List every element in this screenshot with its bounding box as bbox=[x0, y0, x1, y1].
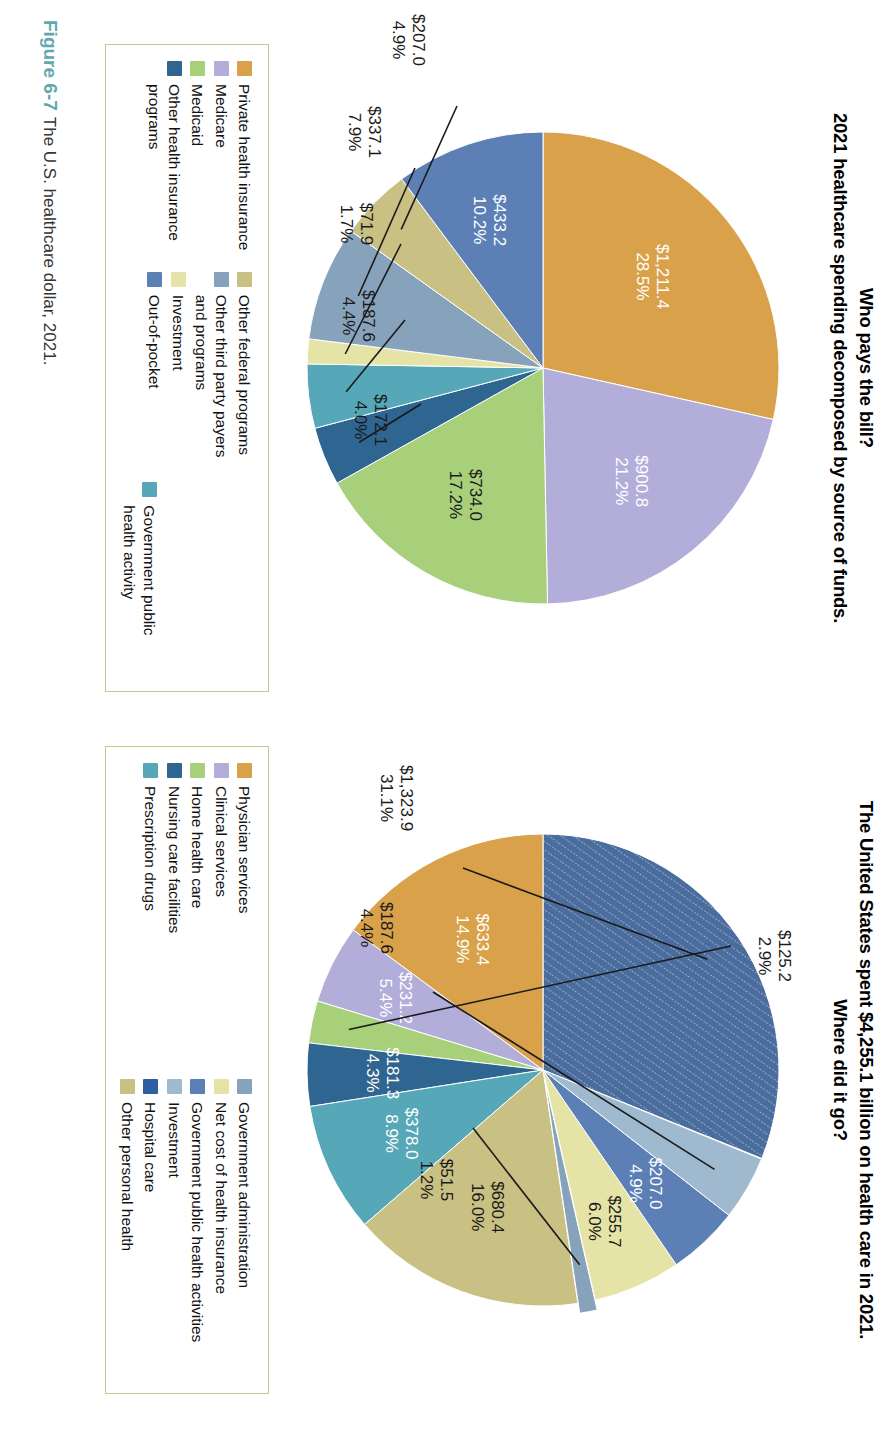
pie-slice-value: $680.4 bbox=[488, 1181, 507, 1233]
legend-swatch-icon bbox=[167, 61, 182, 76]
legend-item-label: Government public health activity bbox=[120, 505, 159, 675]
pie-slice-value: $734.0 bbox=[466, 469, 485, 521]
legend-item: Out-of-pocket bbox=[145, 272, 164, 465]
legend-item: Investment bbox=[165, 1079, 184, 1377]
legend-item-label: Home health care bbox=[188, 786, 207, 908]
legend-item: Other personal health bbox=[118, 1079, 137, 1377]
pie-callout-label: $51.51.2% bbox=[417, 1159, 456, 1202]
legend-swatch-icon bbox=[214, 272, 229, 287]
pie-slice-value: $1,211.4 bbox=[653, 244, 672, 309]
left-legend-column-3: Government public health activity bbox=[120, 482, 254, 675]
pie-slice-label: $900.821.2% bbox=[612, 455, 651, 507]
pie-slice-label: $633.414.9% bbox=[453, 913, 492, 965]
pie-slice-value: $181.3 bbox=[383, 1047, 402, 1099]
pie-callout-label: $172.14.0% bbox=[351, 394, 390, 446]
pie-slice-percent: 8.9% bbox=[382, 1114, 401, 1153]
legend-item-label: Other third party payers and programs bbox=[192, 295, 231, 458]
right-chart-title-line1: The United States spent $4,255.1 billion… bbox=[853, 720, 879, 1420]
legend-swatch-icon bbox=[148, 272, 163, 287]
pie-callout-percent: 31.1% bbox=[377, 774, 396, 822]
legend-swatch-icon bbox=[142, 482, 157, 497]
pie-slice-percent: 28.5% bbox=[633, 252, 652, 300]
pie-callout-percent: 2.9% bbox=[755, 937, 774, 976]
legend-item: Home health care bbox=[188, 763, 207, 1061]
legend-item: Other third party payers and programs bbox=[192, 272, 231, 465]
legend-item-label: Nursing care facilities bbox=[165, 786, 184, 933]
pie-slice-percent: 21.2% bbox=[612, 457, 631, 505]
legend-swatch-icon bbox=[190, 763, 205, 778]
pie-callout-percent: 1.2% bbox=[417, 1161, 436, 1200]
pie-callout-value: $187.6 bbox=[377, 902, 396, 954]
pie-callout-value: $1,323.9 bbox=[397, 765, 416, 831]
legend-item-label: Government administration bbox=[235, 1102, 254, 1288]
legend-item-label: Physician services bbox=[235, 786, 254, 914]
legend-item-label: Medicaid bbox=[188, 84, 207, 146]
legend-swatch-icon bbox=[144, 763, 159, 778]
left-chart-title: Who pays the bill? 2021 healthcare spend… bbox=[826, 18, 879, 718]
pie-slice-label: $680.416.0% bbox=[468, 1181, 507, 1233]
pie-slice-label: $181.34.3% bbox=[363, 1047, 402, 1099]
left-chart-title-line1: Who pays the bill? bbox=[853, 18, 879, 718]
pie-slice-percent: 6.0% bbox=[585, 1202, 604, 1241]
legend-item-label: Private health insurance bbox=[235, 84, 254, 250]
pie-slice-label: $734.017.2% bbox=[446, 469, 485, 521]
left-legend-column-2: Other federal programsOther third party … bbox=[120, 272, 254, 465]
legend-swatch-icon bbox=[120, 1079, 135, 1094]
legend-swatch-icon bbox=[171, 272, 186, 287]
legend-swatch-icon bbox=[167, 1079, 182, 1094]
right-chart-title-line2: Where did it go? bbox=[826, 720, 852, 1420]
pie-slice-percent: 17.2% bbox=[446, 471, 465, 519]
pie-callout-label: $207.04.9% bbox=[389, 14, 428, 66]
legend-item-label: Clinical services bbox=[211, 786, 230, 897]
pie-callout-percent: 4.4% bbox=[339, 297, 358, 336]
pie-callout-label: $71.91.7% bbox=[337, 203, 376, 246]
legend-item: Government public health activity bbox=[120, 482, 159, 675]
pie-slice-percent: 14.9% bbox=[453, 915, 472, 963]
legend-item-label: Other personal health bbox=[118, 1102, 137, 1251]
pie-slice-value: $900.8 bbox=[632, 455, 651, 507]
panel-who-pays-the-bill: Who pays the bill? 2021 healthcare spend… bbox=[89, 18, 889, 718]
figure-caption-text: The U.S. healthcare dollar, 2021. bbox=[40, 117, 59, 366]
legend-item: Clinical services bbox=[211, 763, 230, 1061]
legend-swatch-icon bbox=[190, 1079, 205, 1094]
pie-callout-value: $337.1 bbox=[365, 106, 384, 158]
legend-item: Medicaid bbox=[188, 61, 207, 254]
pie-slice-label: $207.04.9% bbox=[626, 1158, 665, 1210]
pie-callout-value: $172.1 bbox=[371, 394, 390, 446]
pie-callout-value: $125.2 bbox=[775, 930, 794, 982]
legend-item: Other health insurance programs bbox=[145, 61, 184, 254]
pie-slice-value: $378.0 bbox=[402, 1108, 421, 1160]
pie-slice-percent: 10.2% bbox=[470, 196, 489, 244]
figure-number: Figure 6-7 bbox=[40, 20, 61, 111]
legend-swatch-icon bbox=[167, 763, 182, 778]
legend-item-label: Other federal programs bbox=[235, 295, 254, 455]
legend-item: Investment bbox=[169, 272, 188, 465]
left-pie-chart: $1,211.428.5%$900.821.2%$734.017.2%$172.… bbox=[293, 48, 793, 688]
legend-item: Nursing care facilities bbox=[165, 763, 184, 1061]
legend-item-label: Out-of-pocket bbox=[145, 295, 164, 389]
legend-item: Prescription drugs bbox=[141, 763, 160, 1061]
pie-callout-value: $51.5 bbox=[437, 1159, 456, 1202]
right-chart-title: The United States spent $4,255.1 billion… bbox=[826, 720, 879, 1420]
legend-item-label: Investment bbox=[169, 295, 188, 371]
pie-callout-label: $187.64.4% bbox=[339, 290, 378, 342]
pie-callout-value: $71.9 bbox=[357, 203, 376, 246]
legend-item-label: Government public health activities bbox=[188, 1102, 207, 1342]
pie-slice-label: $1,211.428.5% bbox=[633, 244, 672, 309]
pie-slice-percent: 5.4% bbox=[376, 979, 395, 1018]
legend-item: Government administration bbox=[235, 1079, 254, 1377]
figure-6-7: Who pays the bill? 2021 healthcare spend… bbox=[0, 0, 889, 1444]
pie-callout-percent: 4.4% bbox=[357, 909, 376, 948]
legend-swatch-icon bbox=[214, 763, 229, 778]
pie-slice-percent: 4.9% bbox=[626, 1164, 645, 1203]
legend-item-label: Investment bbox=[165, 1102, 184, 1178]
pie-slice-value: $255.7 bbox=[605, 1195, 624, 1247]
legend-swatch-icon bbox=[214, 61, 229, 76]
legend-swatch-icon bbox=[237, 1079, 252, 1094]
legend-swatch-icon bbox=[237, 61, 252, 76]
legend-item: Net cost of health insurance bbox=[211, 1079, 230, 1377]
pie-slice-label: $255.76.0% bbox=[585, 1195, 624, 1247]
pie-slice-label: $433.210.2% bbox=[470, 194, 509, 246]
pie-callout-percent: 7.9% bbox=[345, 113, 364, 152]
right-pie-chart: $1,323.931.1%$633.414.9%$231.25.4%$125.2… bbox=[293, 750, 793, 1390]
